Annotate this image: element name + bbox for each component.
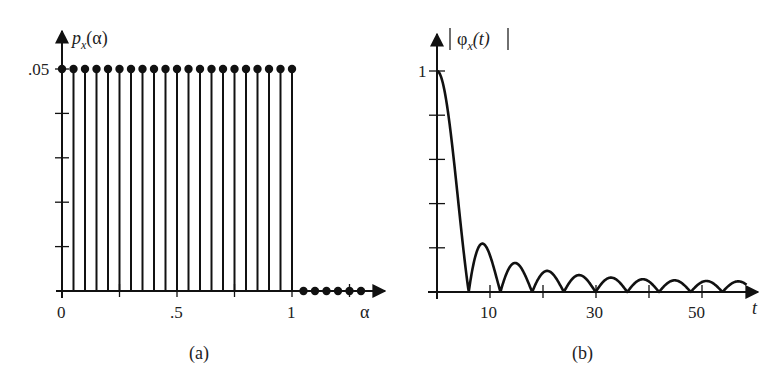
stem bbox=[265, 65, 273, 291]
stem-series bbox=[58, 65, 365, 295]
y-axis-title: φx(t) bbox=[450, 28, 508, 53]
stem bbox=[69, 65, 77, 291]
stem bbox=[127, 65, 135, 291]
stem bbox=[173, 65, 181, 291]
x-tick-label-1: 1 bbox=[287, 303, 296, 322]
stem bbox=[276, 65, 284, 291]
x-tick-label-0: 0 bbox=[57, 303, 66, 322]
magnitude-curve bbox=[437, 71, 747, 292]
stem bbox=[92, 65, 100, 291]
stem bbox=[104, 65, 112, 291]
stem bbox=[184, 65, 192, 291]
caption-a: (a) bbox=[189, 343, 209, 364]
x-tick-label-50: 50 bbox=[688, 303, 705, 322]
stem bbox=[196, 65, 204, 291]
stem bbox=[115, 65, 123, 291]
stem bbox=[219, 65, 227, 291]
svg-text:φx(t): φx(t) bbox=[457, 29, 490, 53]
stem bbox=[207, 65, 215, 291]
x-axis-title: α bbox=[360, 302, 370, 322]
stem bbox=[161, 65, 169, 291]
stem bbox=[138, 65, 146, 291]
y-tick-label: .05 bbox=[28, 60, 49, 79]
y-tick-label: 1 bbox=[418, 62, 427, 81]
y-title-main: p bbox=[70, 28, 81, 48]
y-axis-title: px(α) bbox=[70, 28, 108, 52]
y-title-main: φ bbox=[457, 29, 467, 49]
y-title-arg: (α) bbox=[86, 28, 107, 49]
stem bbox=[253, 65, 261, 291]
x-tick-label-half: .5 bbox=[170, 303, 183, 322]
stem bbox=[288, 65, 296, 291]
figure: .05 0 .5 1 α px(α) (a) 1 10 30 50 t φx(t… bbox=[0, 0, 780, 381]
x-tick-label-30: 30 bbox=[586, 303, 603, 322]
x-tick-label-10: 10 bbox=[480, 303, 497, 322]
stem bbox=[242, 65, 250, 291]
stem bbox=[150, 65, 158, 291]
stem bbox=[230, 65, 238, 291]
chart-a: .05 0 .5 1 α px(α) (a) bbox=[28, 28, 385, 364]
chart-b: 1 10 30 50 t φx(t) (b) bbox=[418, 28, 758, 364]
x-axis-title: t bbox=[752, 298, 758, 318]
caption-b: (b) bbox=[572, 343, 593, 364]
stem bbox=[81, 65, 89, 291]
y-title-arg: (t) bbox=[473, 29, 490, 50]
